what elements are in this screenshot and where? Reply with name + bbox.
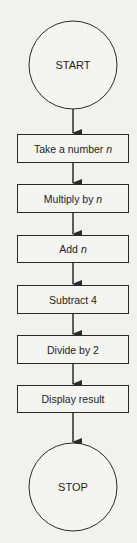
svg-text:Add n: Add n [59,243,87,255]
step-variable: n [106,143,112,155]
step-label: Divide by 2 [47,344,99,356]
process-step-divide: Divide by 2 [18,336,129,364]
svg-text:Take a number n: Take a number n [34,143,112,155]
process-step-display: Display result [18,386,129,413]
step-label: Multiply by [44,193,97,205]
stop-label: STOP [58,481,88,493]
process-step-take-number: Take a number n [18,135,129,163]
svg-text:Multiply by n: Multiply by n [44,193,103,205]
start-terminal: START [29,21,117,109]
process-step-add: Add n [18,236,129,263]
step-variable: n [81,243,87,255]
step-label: Subtract 4 [49,294,97,306]
process-step-multiply: Multiply by n [18,185,129,213]
step-label: Take a number [34,143,106,155]
step-variable: n [96,193,102,205]
step-label: Display result [41,393,104,405]
process-step-subtract: Subtract 4 [18,286,129,314]
flowchart: START Take a number n Multiply by n Add … [0,0,137,543]
stop-terminal: STOP [29,443,117,531]
start-label: START [55,59,90,71]
step-label: Add [59,243,81,255]
